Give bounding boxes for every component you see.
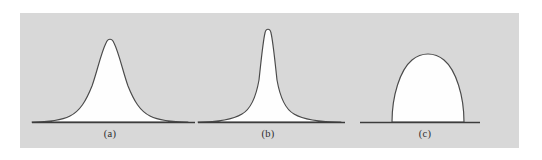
caption-b: (b)	[262, 128, 275, 139]
caption-a: (a)	[104, 128, 116, 139]
curve-c-platykurtic	[392, 54, 464, 122]
caption-c: (c)	[419, 128, 431, 139]
curve-a-mesokurtic	[32, 39, 188, 122]
kurtosis-figure: (a) (b) (c)	[0, 0, 542, 160]
curve-b-leptokurtic	[198, 29, 341, 122]
